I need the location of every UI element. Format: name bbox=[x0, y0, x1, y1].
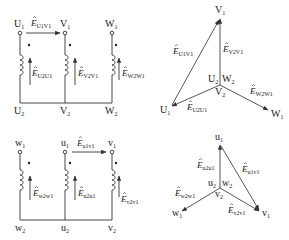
polarity-dot-u bbox=[69, 162, 71, 164]
label-U1: U1 bbox=[14, 18, 24, 30]
winding-u bbox=[63, 150, 75, 220]
phasor-emf-u2u1: Eu2u1 bbox=[196, 160, 215, 171]
emf-label-w2w1: Ew2w1 bbox=[32, 188, 53, 199]
phasor-emf-V2V1: EV2V1 bbox=[222, 44, 243, 55]
coil-W bbox=[112, 55, 115, 75]
phasor-label-w1: w1 bbox=[172, 207, 182, 219]
terminal-w1 bbox=[18, 150, 22, 154]
label-u1: u1 bbox=[61, 137, 69, 149]
coil-U bbox=[20, 55, 23, 75]
coil-u bbox=[65, 170, 68, 190]
phasor-label-V2: V2 bbox=[215, 86, 225, 98]
transformer-diagram: U1 V1 W1 U2 V2 W2 EU1V1 EU2U1 EV2V1 EW2W… bbox=[0, 0, 289, 240]
terminal-U1 bbox=[18, 31, 22, 35]
label-V1: V1 bbox=[60, 18, 70, 30]
emf-label-W2W1: EW2W1 bbox=[121, 68, 145, 79]
winding-V bbox=[63, 31, 75, 103]
bottom-winding-circuit: w1 u1 v1 w2 u2 v2 Eu1v1 Ew2w1 Eu2u1 Ev2v… bbox=[15, 137, 139, 234]
phasor-label-V1: V1 bbox=[215, 4, 225, 16]
bottom-phasor-diagram: u1 w1 v1 u2 w2 v2 Eu2u1 Eu1v1 Ew2w1 Ev2v… bbox=[172, 131, 270, 219]
terminal-v1 bbox=[110, 150, 114, 154]
phasor-U1V1 bbox=[172, 20, 219, 105]
label-v1: v1 bbox=[108, 137, 116, 149]
coil-w bbox=[20, 170, 23, 190]
phasor-U2U1 bbox=[172, 85, 220, 106]
winding-W bbox=[110, 31, 119, 103]
emf-label-U1V1: EU1V1 bbox=[30, 18, 51, 29]
emf-label-V2V1: EV2V1 bbox=[77, 68, 98, 79]
phasor-emf-v2v1: Ev2v1 bbox=[227, 205, 246, 216]
polarity-dot-U bbox=[28, 44, 30, 46]
polarity-dot-w bbox=[28, 162, 30, 164]
terminal-V1 bbox=[63, 31, 67, 35]
phasor-label-w2: w2 bbox=[222, 177, 232, 189]
top-winding-circuit: U1 V1 W1 U2 V2 W2 EU1V1 EU2U1 EV2V1 EW2W… bbox=[14, 18, 145, 117]
winding-w bbox=[18, 150, 30, 220]
phasor-label-U1: U1 bbox=[160, 104, 170, 116]
label-W1: W1 bbox=[105, 18, 117, 30]
emf-label-U2U1: EU2U1 bbox=[31, 68, 52, 79]
phasor-emf-w2w1: Ew2w1 bbox=[174, 188, 195, 199]
label-w1: w1 bbox=[15, 137, 25, 149]
phasor-label-v1: v1 bbox=[262, 207, 270, 219]
phasor-label-W1: W1 bbox=[271, 108, 283, 120]
phasor-emf-W2W1: EW2W1 bbox=[249, 86, 273, 97]
phasor-label-W2: W2 bbox=[222, 73, 234, 85]
polarity-dot-V bbox=[69, 44, 71, 46]
phasor-emf-u1v1: Eu1v1 bbox=[241, 164, 260, 175]
coil-V bbox=[65, 55, 68, 75]
phasor-label-u1: u1 bbox=[215, 131, 223, 143]
phasor-label-U2: U2 bbox=[208, 73, 218, 85]
label-V2: V2 bbox=[60, 105, 70, 117]
phasor-label-v2: v2 bbox=[215, 188, 223, 200]
phasor-emf-U1V1: EU1V1 bbox=[172, 46, 193, 57]
coil-v bbox=[112, 170, 115, 190]
label-W2: W2 bbox=[105, 105, 117, 117]
polarity-dot-v bbox=[115, 162, 117, 164]
emf-label-v2v1: Ev2v1 bbox=[120, 194, 139, 205]
winding-v bbox=[110, 150, 119, 220]
phasor-emf-U2U1: EU2U1 bbox=[186, 102, 207, 113]
winding-U bbox=[18, 31, 30, 103]
top-phasor-diagram: V1 U1 W1 U2 W2 V2 EU1V1 EV2V1 EU2U1 EW2W… bbox=[160, 4, 283, 120]
polarity-dot-W bbox=[115, 44, 117, 46]
phasor-W2W1 bbox=[220, 85, 268, 110]
label-w2: w2 bbox=[15, 222, 25, 234]
label-U2: U2 bbox=[14, 105, 24, 117]
terminal-W1 bbox=[110, 31, 114, 35]
emf-label-u1v1: Eu1v1 bbox=[76, 138, 95, 149]
label-u2: u2 bbox=[61, 222, 69, 234]
terminal-u1 bbox=[63, 150, 67, 154]
label-v2: v2 bbox=[108, 222, 116, 234]
emf-label-u2u1: Eu2u1 bbox=[77, 188, 96, 199]
